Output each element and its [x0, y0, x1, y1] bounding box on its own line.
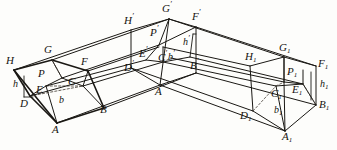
label-C: C	[68, 76, 75, 87]
label-C-sub1: C1	[271, 88, 282, 99]
label-E-sub1-letter: E	[292, 83, 299, 95]
label-P-prime: P′	[150, 27, 158, 38]
sub-one-mark: 1	[326, 104, 330, 112]
prime-mark: ′	[197, 57, 199, 66]
label-D-sub1-letter: D	[240, 109, 248, 121]
label-F-sub1-letter: F	[318, 57, 325, 69]
prime-mark: ′	[199, 8, 201, 17]
sub-one-mark: 1	[287, 47, 291, 55]
label-b: b	[59, 95, 64, 105]
label-A-prime: A′	[155, 86, 163, 97]
label-B-prime-letter: B	[190, 59, 197, 71]
label-b-sub1: b1	[274, 105, 283, 115]
sub-one-mark: 1	[299, 89, 303, 97]
prime-mark: ′	[146, 45, 148, 54]
label-F-prime-letter: F	[192, 10, 199, 22]
right-end-section	[250, 57, 316, 131]
label-G-sub1-letter: G	[279, 41, 287, 53]
sub-one-mark: 1	[253, 56, 257, 64]
label-A-prime-letter: A	[155, 85, 162, 97]
label-E: E	[36, 84, 43, 95]
label-F: F	[81, 56, 88, 67]
label-h-prime: h′	[183, 37, 190, 47]
label-F-sub1: F1	[318, 58, 328, 69]
prime-mark: ′	[132, 59, 134, 68]
sub-one-mark: 1	[325, 63, 329, 71]
label-H: H	[6, 55, 14, 66]
label-h: h	[13, 79, 18, 89]
label-H-prime: H′	[124, 15, 134, 26]
label-H-prime-letter: H	[124, 14, 132, 26]
label-A-sub1-letter: A	[282, 130, 289, 142]
label-P: P	[38, 68, 45, 79]
left-end-face	[14, 60, 104, 123]
label-C-prime: C′	[158, 52, 167, 63]
sub-one-mark: 1	[279, 109, 283, 117]
label-A: A	[52, 124, 59, 135]
sub-one-mark: 1	[278, 93, 282, 101]
label-P-sub1: P1	[287, 66, 297, 77]
label-F-prime: F′	[192, 11, 200, 22]
label-B-sub1: B1	[319, 99, 329, 110]
label-E-prime: E′	[139, 48, 147, 59]
sub-one-mark: 1	[289, 136, 293, 144]
label-B: B	[100, 104, 107, 115]
sub-one-mark: 1	[248, 115, 252, 123]
label-G: G	[44, 44, 52, 55]
label-D-prime-letter: D	[124, 61, 132, 73]
label-G-prime: G′	[162, 3, 172, 14]
label-P-prime-letter: P	[150, 26, 157, 38]
prime-mark: ′	[165, 49, 167, 58]
prime-mark: ′	[173, 49, 175, 58]
label-G-prime-letter: G	[162, 2, 170, 14]
label-A-sub1: A1	[282, 131, 292, 142]
label-B-prime: B′	[190, 60, 198, 71]
label-B-sub1-letter: B	[319, 98, 326, 110]
label-H-sub1-letter: H	[245, 50, 253, 62]
label-E-sub1: E1	[292, 84, 302, 95]
label-G-sub1: G1	[279, 42, 290, 53]
prime-mark: ′	[132, 12, 134, 21]
label-E-prime-letter: E	[139, 47, 146, 59]
sub-one-mark: 1	[325, 83, 329, 91]
sub-one-mark: 1	[294, 71, 298, 79]
label-D: D	[20, 98, 28, 109]
label-D-prime: D′	[124, 62, 134, 73]
prime-mark: ′	[170, 0, 172, 9]
label-P-sub1-letter: P	[287, 65, 294, 77]
geometry-figure: H G F P E C D A B h b H′ G′ F′ P′ E′ C′ …	[0, 0, 337, 150]
prime-mark: ′	[188, 34, 190, 43]
label-b-prime: b′	[168, 52, 175, 62]
label-h-sub1: h1	[320, 79, 329, 89]
prime-mark: ′	[157, 24, 159, 33]
label-D-sub1: D1	[240, 110, 251, 121]
label-H-sub1: H1	[245, 51, 256, 62]
prime-mark: ′	[162, 83, 164, 92]
